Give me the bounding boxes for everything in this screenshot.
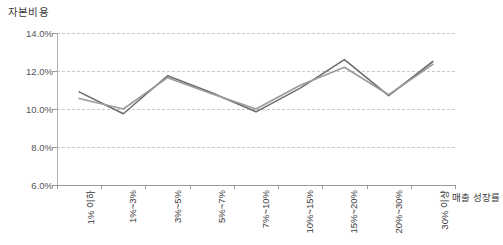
- x-axis-title: 매출 성장률: [452, 190, 500, 204]
- x-tick-mark: [101, 185, 102, 189]
- x-tick-label: 20%~30%: [393, 190, 404, 234]
- x-tick-label: 7%~10%: [260, 190, 271, 228]
- x-tick-mark: [234, 185, 235, 189]
- x-tick-mark: [278, 185, 279, 189]
- x-tick-label: 1% 이하: [83, 190, 97, 224]
- y-axis-tick-labels: 14.0%12.0%10.0%8.0%6.0%: [0, 0, 53, 245]
- y-tick-label: 10.0%: [26, 104, 53, 115]
- x-tick-mark: [190, 185, 191, 189]
- y-tick-mark: [52, 147, 57, 148]
- x-axis-line: [57, 185, 455, 186]
- series-line-series-2: [79, 64, 433, 109]
- y-tick-mark: [52, 33, 57, 34]
- x-tick-label: 1%~3%: [127, 190, 138, 223]
- y-tick-label: 12.0%: [26, 66, 53, 77]
- x-tick-mark: [322, 185, 323, 189]
- x-tick-mark: [57, 185, 58, 189]
- y-tick-mark: [52, 71, 57, 72]
- x-tick-label: 30% 이상: [437, 190, 451, 230]
- x-tick-label: 10%~15%: [304, 190, 315, 234]
- y-tick-mark: [52, 185, 57, 186]
- x-tick-label: 15%~20%: [348, 190, 359, 234]
- y-tick-label: 6.0%: [31, 180, 53, 191]
- x-tick-mark: [367, 185, 368, 189]
- chart-container: 자본비용 매출 성장률 14.0%12.0%10.0%8.0%6.0% 1% 이…: [0, 0, 503, 245]
- x-tick-mark: [411, 185, 412, 189]
- series-line-series-1: [79, 60, 433, 114]
- series-lines: [57, 33, 455, 185]
- y-tick-label: 8.0%: [31, 142, 53, 153]
- x-tick-mark: [145, 185, 146, 189]
- x-tick-mark: [455, 185, 456, 189]
- x-tick-label: 5%~7%: [216, 190, 227, 223]
- y-tick-label: 14.0%: [26, 28, 53, 39]
- y-tick-mark: [52, 109, 57, 110]
- x-tick-label: 3%~5%: [172, 190, 183, 223]
